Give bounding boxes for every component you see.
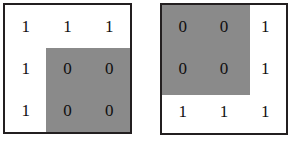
grid-cell: 1 xyxy=(5,90,47,132)
grid-cell: 1 xyxy=(245,90,286,133)
grid-cell: 1 xyxy=(88,5,130,47)
grid-cell: 0 xyxy=(162,5,203,48)
grid-cell: 0 xyxy=(88,90,130,132)
grid-cell: 1 xyxy=(5,5,47,47)
figure-canvas: 1 1 1 1 0 0 1 0 0 0 0 1 0 0 1 1 1 1 xyxy=(0,0,292,152)
grid-cell: 1 xyxy=(47,5,89,47)
grid-cell: 0 xyxy=(47,90,89,132)
left-grid-cell-layer: 1 1 1 1 0 0 1 0 0 xyxy=(5,5,130,132)
left-grid-panel: 1 1 1 1 0 0 1 0 0 xyxy=(3,3,132,134)
grid-cell: 1 xyxy=(162,90,203,133)
right-grid-caption xyxy=(160,139,288,152)
grid-cell: 1 xyxy=(245,5,286,48)
grid-cell: 1 xyxy=(5,47,47,89)
grid-cell: 1 xyxy=(245,48,286,91)
grid-cell: 1 xyxy=(203,90,244,133)
grid-cell: 0 xyxy=(47,47,89,89)
grid-cell: 0 xyxy=(162,48,203,91)
grid-cell: 0 xyxy=(203,5,244,48)
grid-cell: 0 xyxy=(203,48,244,91)
right-grid-cell-layer: 0 0 1 0 0 1 1 1 1 xyxy=(162,5,286,133)
grid-cell: 0 xyxy=(88,47,130,89)
right-grid-panel: 0 0 1 0 0 1 1 1 1 xyxy=(160,3,288,135)
